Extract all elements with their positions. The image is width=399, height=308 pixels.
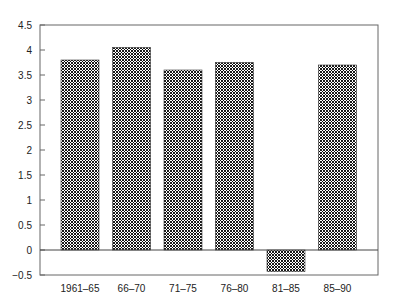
y-tick-label: 1.5 (18, 170, 32, 181)
bar-3 (216, 63, 254, 251)
y-tick-label: −0.5 (12, 270, 32, 281)
bar-4 (267, 250, 305, 272)
y-tick-label: 4 (26, 45, 32, 56)
x-axis: 1961–6566–7071–7576–8081–8585–90 (61, 283, 352, 294)
bar-5 (319, 65, 357, 250)
x-category-label: 81–85 (272, 283, 300, 294)
y-tick-label: 0.5 (18, 220, 32, 231)
x-category-label: 66–70 (118, 283, 146, 294)
bar-0 (61, 60, 99, 250)
y-tick-label: 0 (26, 245, 32, 256)
y-tick-label: 2.5 (18, 120, 32, 131)
y-tick-label: 2 (26, 145, 32, 156)
y-tick-label: 3 (26, 95, 32, 106)
y-tick-label: 1 (26, 195, 32, 206)
x-category-label: 76–80 (221, 283, 249, 294)
x-category-label: 1961–65 (61, 283, 100, 294)
bar-1 (113, 48, 151, 251)
bar-chart: −0.500.511.522.533.544.5 1961–6566–7071–… (0, 0, 399, 308)
y-tick-label: 3.5 (18, 70, 32, 81)
y-tick-label: 4.5 (18, 20, 32, 31)
bar-2 (164, 70, 202, 250)
x-category-label: 71–75 (169, 283, 197, 294)
x-category-label: 85–90 (324, 283, 352, 294)
bars (61, 48, 357, 272)
